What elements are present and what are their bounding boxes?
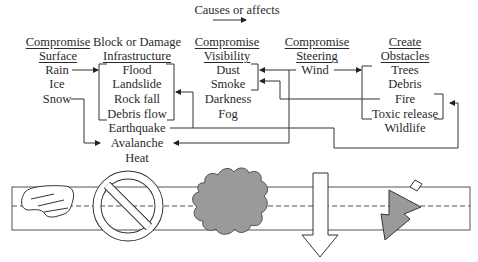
smoke-cloud-icon — [193, 168, 268, 234]
road-illustration — [0, 0, 478, 262]
